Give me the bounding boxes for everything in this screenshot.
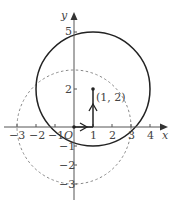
y-tick-label: 5 [65, 25, 72, 38]
y-tick-label: 2 [65, 83, 72, 96]
x-axis-label: x [162, 129, 169, 142]
x-tick-label: 1 [90, 129, 97, 142]
origin-label: O [64, 129, 73, 142]
origin-point [72, 125, 76, 129]
x-tick-label: −2 [29, 129, 45, 142]
x-tick-label: 4 [147, 129, 154, 142]
center-point-label: (1, 2) [96, 91, 126, 104]
diagram-canvas: −3 −2 −1 1 2 3 4 5 2 −1 −2 −3 x y O (1, … [0, 0, 181, 205]
x-tick-label: 2 [109, 129, 116, 142]
center-point [91, 87, 95, 91]
y-axis-label: y [60, 9, 68, 22]
x-tick-label: −3 [9, 129, 25, 142]
y-tick-label: −3 [59, 178, 75, 191]
y-axis-arrow-icon [71, 12, 78, 20]
x-tick-label: 3 [128, 129, 135, 142]
y-tick-label: −2 [59, 159, 75, 172]
